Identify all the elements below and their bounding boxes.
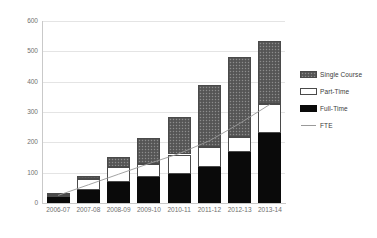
- legend-item-label: Full-Time: [320, 105, 348, 112]
- single-course-swatch: [300, 71, 317, 78]
- y-axis-tick-label: 500: [0, 48, 38, 55]
- stacked-bar-chart: 0100200300400500600 2006-072007-082008-0…: [0, 0, 377, 238]
- x-axis-tick-label: 2012-13: [223, 206, 257, 214]
- fte-line-swatch: [300, 122, 317, 129]
- y-axis-tick-label: 300: [0, 109, 38, 116]
- y-axis-tick-labels: 0100200300400500600: [0, 0, 38, 238]
- legend-item-full-time[interactable]: Full-Time: [300, 100, 374, 117]
- legend-item-label: Part-Time: [320, 88, 349, 95]
- x-axis-tick-label: 2010-11: [162, 206, 196, 214]
- x-axis-tick-label: 2007-08: [71, 206, 105, 214]
- legend-item-label: FTE: [320, 122, 333, 129]
- x-axis-tick-label: 2008-09: [102, 206, 136, 214]
- y-axis-tick-label: 100: [0, 170, 38, 177]
- x-axis-tick-label: 2006-07: [41, 206, 75, 214]
- legend-item-part-time[interactable]: Part-Time: [300, 83, 374, 100]
- y-axis-tick-label: 0: [0, 200, 38, 207]
- fte-line-path: [58, 104, 270, 195]
- legend-item-fte[interactable]: FTE: [300, 117, 374, 134]
- y-axis-tick-label: 400: [0, 79, 38, 86]
- legend-item-single-course[interactable]: Single Course: [300, 66, 374, 83]
- part-time-swatch: [300, 88, 317, 95]
- x-axis-tick-label: 2011-12: [192, 206, 226, 214]
- legend: Single Course Part-Time Full-Time FTE: [300, 66, 374, 134]
- x-axis-tick-labels: 2006-072007-082008-092009-102010-112011-…: [43, 206, 285, 224]
- x-axis: [42, 203, 286, 204]
- y-axis-tick-label: 200: [0, 139, 38, 146]
- full-time-swatch: [300, 105, 317, 112]
- fte-line-series: [43, 21, 285, 203]
- y-axis-tick-label: 600: [0, 18, 38, 25]
- legend-item-label: Single Course: [320, 71, 362, 78]
- x-axis-tick-label: 2009-10: [132, 206, 166, 214]
- x-axis-tick-label: 2013-14: [253, 206, 287, 214]
